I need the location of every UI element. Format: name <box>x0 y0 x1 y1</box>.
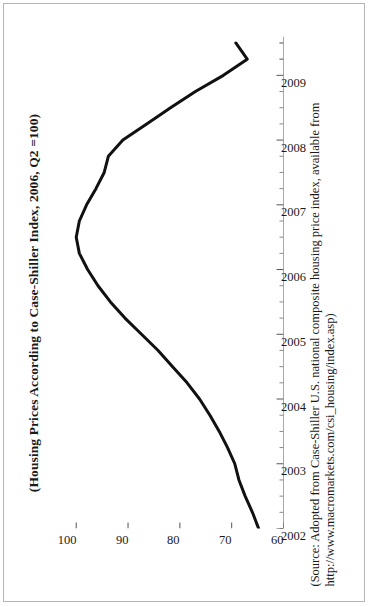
x-axis-tick-label: 2007 <box>281 204 306 219</box>
y-axis-tick-label: 70 <box>219 533 232 548</box>
chart-title: (Housing Prices According to Case-Shille… <box>25 15 41 590</box>
line-chart-svg <box>55 36 283 528</box>
x-axis-tick-label: 2004 <box>281 399 306 414</box>
x-axis-tick-label: 2006 <box>281 269 306 284</box>
y-axis-tick-label: 80 <box>167 533 180 548</box>
source-note: (Source: Adopted from Case-Shiller U.S. … <box>307 20 338 586</box>
x-axis-tick-label: 2002 <box>281 528 306 543</box>
figure-inner: (Housing Prices According to Case-Shille… <box>19 15 349 590</box>
axis-ticks <box>76 42 283 528</box>
y-axis-tick-label: 60 <box>271 533 284 548</box>
x-axis-tick-label: 2008 <box>281 140 306 155</box>
source-note-line-2: http://www.macromarkets.com/csi_housing/… <box>322 20 337 586</box>
rotated-figure-container: (Housing Prices According to Case-Shille… <box>19 15 349 590</box>
x-axis-tick-label: 2009 <box>281 75 306 90</box>
y-axis-tick-label: 100 <box>57 533 76 548</box>
data-series-line <box>76 42 258 528</box>
plot-area: 20022003200420052006200720082009 6070809… <box>55 36 283 528</box>
source-note-line-1: (Source: Adopted from Case-Shiller U.S. … <box>307 20 322 586</box>
x-axis-tick-label: 2005 <box>281 334 306 349</box>
page-border: (Housing Prices According to Case-Shille… <box>3 3 365 602</box>
x-axis-tick-label: 2003 <box>281 463 306 478</box>
y-axis-tick-label: 90 <box>115 533 128 548</box>
